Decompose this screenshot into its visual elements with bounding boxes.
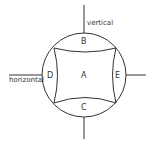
- label-region-c: C: [81, 103, 87, 112]
- label-vertical: vertical: [87, 19, 113, 27]
- label-region-a: A: [81, 71, 87, 80]
- label-region-e: E: [115, 71, 120, 80]
- label-region-b: B: [81, 37, 87, 46]
- cross-section-diagram: vertical horizontal A B C D E: [0, 0, 157, 145]
- label-horizontal: horizontal: [9, 76, 44, 84]
- label-region-d: D: [47, 71, 53, 80]
